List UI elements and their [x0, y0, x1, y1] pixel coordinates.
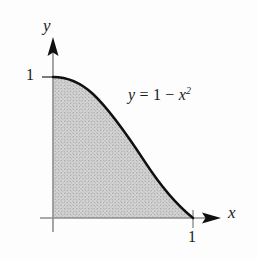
equation-minus: − — [161, 86, 179, 103]
curve-equation-label: y = 1 − x2 — [128, 86, 191, 103]
y-axis-tick-label-1: 1 — [26, 67, 34, 83]
math-figure: y x 1 1 y = 1 − x2 — [0, 0, 257, 260]
plot-canvas — [0, 0, 257, 260]
equation-variable: x — [179, 86, 186, 103]
equation-constant: 1 — [153, 86, 161, 103]
axis-label-x: x — [228, 204, 236, 221]
axis-label-y: y — [43, 17, 51, 34]
equation-equals: = — [135, 86, 153, 103]
equation-exponent: 2 — [186, 85, 191, 96]
x-axis-tick-label-1: 1 — [188, 229, 196, 245]
